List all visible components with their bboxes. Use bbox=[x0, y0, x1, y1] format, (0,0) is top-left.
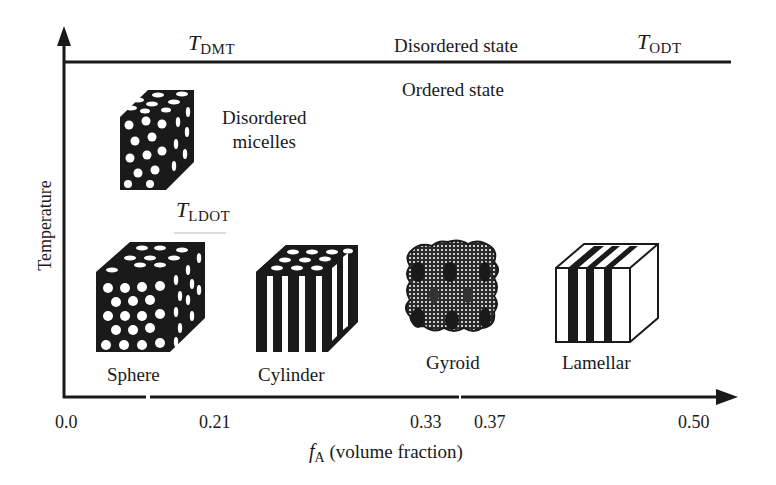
tdmt-subscript: DMT bbox=[200, 41, 235, 57]
cylinder-label: Cylinder bbox=[258, 364, 325, 386]
micelles-line2: micelles bbox=[222, 130, 306, 154]
ordered-state-label: Ordered state bbox=[402, 79, 504, 101]
disordered-state-label: Disordered state bbox=[394, 35, 518, 57]
disordered-state-text: Disordered state bbox=[394, 35, 518, 56]
x-tick-3-text: 0.37 bbox=[474, 412, 506, 432]
y-axis-arrow-icon bbox=[57, 26, 71, 46]
micelles-line1: Disordered bbox=[222, 106, 306, 130]
tdmt-symbol: T bbox=[188, 30, 200, 55]
x-tick-2-text: 0.33 bbox=[410, 412, 442, 432]
x-tick-1-text: 0.21 bbox=[199, 412, 231, 432]
x-axis-subscript: A bbox=[315, 450, 325, 465]
ordered-state-text: Ordered state bbox=[402, 79, 504, 100]
disordered-micelles-cube bbox=[120, 90, 194, 190]
x-tick-0-text: 0.0 bbox=[55, 412, 78, 432]
gyroid-structure bbox=[406, 240, 498, 331]
phase-diagram-graphics bbox=[0, 0, 776, 485]
x-axis-label-text: (volume fraction) bbox=[329, 441, 462, 462]
sphere-label: Sphere bbox=[107, 364, 160, 386]
lamellar-label: Lamellar bbox=[562, 352, 631, 374]
x-tick-1: 0.21 bbox=[199, 412, 231, 433]
sphere-cube bbox=[96, 242, 205, 352]
tldot-label: TLDOT bbox=[176, 197, 230, 225]
lamellar-cube bbox=[556, 244, 658, 342]
x-axis bbox=[63, 389, 738, 405]
todt-subscript: ODT bbox=[649, 40, 681, 56]
sphere-label-text: Sphere bbox=[107, 364, 160, 385]
todt-label: TODT bbox=[637, 29, 682, 57]
x-tick-4: 0.50 bbox=[678, 412, 710, 433]
y-axis bbox=[57, 26, 71, 398]
cylinder-label-text: Cylinder bbox=[258, 364, 325, 385]
x-tick-3: 0.37 bbox=[474, 412, 506, 433]
x-tick-2: 0.33 bbox=[410, 412, 442, 433]
disordered-micelles-label: Disordered micelles bbox=[222, 106, 306, 154]
tldot-symbol: T bbox=[176, 197, 188, 222]
gyroid-label: Gyroid bbox=[426, 352, 480, 374]
x-tick-0: 0.0 bbox=[55, 412, 78, 433]
tldot-subscript: LDOT bbox=[188, 208, 230, 224]
cylinder-cube bbox=[256, 245, 358, 352]
tdmt-label: TDMT bbox=[188, 30, 235, 58]
lamellar-label-text: Lamellar bbox=[562, 352, 631, 373]
x-tick-4-text: 0.50 bbox=[678, 412, 710, 432]
todt-symbol: T bbox=[637, 29, 649, 54]
y-axis-label: Temperature bbox=[35, 171, 56, 281]
y-axis-label-text: Temperature bbox=[35, 180, 55, 271]
x-axis-label: fA (volume fraction) bbox=[309, 440, 463, 466]
x-axis-arrow-icon bbox=[716, 389, 738, 405]
gyroid-label-text: Gyroid bbox=[426, 352, 480, 373]
